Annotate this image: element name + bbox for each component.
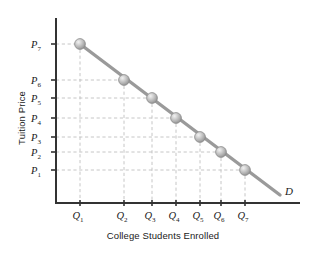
chart-canvas: P7 P6 P5 P4 P3 P2 P1 Q1 Q2 Q3 Q4 Q5 Q6 Q… — [0, 0, 332, 254]
x-axis-title: College Students Enrolled — [107, 230, 219, 241]
y-tick-label: P6 — [30, 75, 41, 89]
y-axis-tick-labels: P7 P6 P5 P4 P3 P2 P1 — [30, 39, 41, 179]
demand-curve-label: D — [284, 185, 293, 197]
y-tick-label: P7 — [30, 39, 41, 53]
data-point — [147, 93, 158, 104]
x-tick-label: Q6 — [213, 210, 225, 224]
x-tick-label: Q7 — [237, 210, 249, 224]
data-point — [240, 165, 251, 176]
y-tick-label: P4 — [30, 113, 41, 127]
gridlines-vertical — [80, 44, 245, 202]
data-point — [171, 113, 182, 124]
x-tick-label: Q3 — [144, 210, 156, 224]
data-point — [216, 147, 227, 158]
y-tick-label: P5 — [30, 93, 41, 107]
y-tick-label: P1 — [30, 165, 41, 179]
x-tick-label: Q1 — [72, 210, 84, 224]
data-point — [195, 132, 206, 143]
y-tick-label: P2 — [30, 147, 41, 161]
x-tick-label: Q4 — [168, 210, 180, 224]
y-axis-title: Tuition Price — [16, 91, 27, 145]
x-axis-tick-labels: Q1 Q2 Q3 Q4 Q5 Q6 Q7 — [72, 210, 249, 224]
y-tick-label: P3 — [30, 132, 41, 146]
x-tick-label: Q2 — [116, 210, 128, 224]
x-tick-label: Q5 — [192, 210, 204, 224]
data-point — [119, 75, 130, 86]
data-point — [75, 39, 86, 50]
demand-curve-chart: P7 P6 P5 P4 P3 P2 P1 Q1 Q2 Q3 Q4 Q5 Q6 Q… — [0, 0, 332, 254]
axis-lines — [55, 18, 300, 203]
